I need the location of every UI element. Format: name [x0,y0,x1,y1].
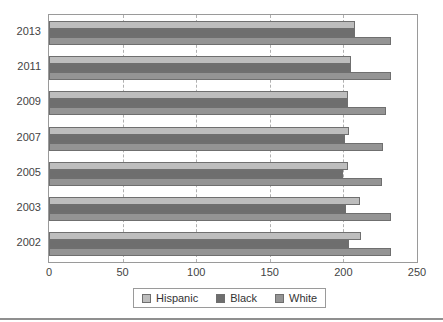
x-tick-label-0: 0 [46,266,52,278]
bar-black-2003 [49,205,346,213]
legend-item-black[interactable]: Black [216,292,257,304]
bar-hispanic-2009 [49,91,348,99]
bar-hispanic-2005 [49,162,348,170]
y-tick-label-2011: 2011 [1,60,41,72]
bar-hispanic-2007 [49,127,349,135]
bar-white-2002 [49,248,391,256]
legend-label: Black [230,292,257,304]
bar-hispanic-2011 [49,56,351,64]
bottom-divider [0,318,443,320]
bar-chart: 2013201120092007200520032002 05010015020… [0,0,443,322]
legend-swatch-icon-white [275,294,284,303]
y-tick-label-2002: 2002 [1,236,41,248]
y-tick-label-2009: 2009 [1,95,41,107]
bar-white-2009 [49,107,386,115]
bar-hispanic-2002 [49,232,361,240]
bar-white-2007 [49,143,383,151]
bar-black-2007 [49,135,345,143]
x-tick-label-150: 150 [261,266,279,278]
bar-group-2003 [49,197,417,221]
bar-group-2005 [49,162,417,186]
plot-area [48,14,418,263]
bar-group-2013 [49,21,417,45]
bar-black-2002 [49,240,349,248]
legend-item-hispanic[interactable]: Hispanic [142,292,198,304]
bar-group-2011 [49,56,417,80]
y-axis: 2013201120092007200520032002 [0,14,44,263]
x-tick-label-200: 200 [334,266,352,278]
bar-black-2009 [49,99,348,107]
bar-hispanic-2003 [49,197,360,205]
bar-black-2011 [49,64,351,72]
bar-black-2013 [49,29,355,37]
bar-white-2003 [49,213,391,221]
y-tick-label-2003: 2003 [1,201,41,213]
chart-legend: HispanicBlackWhite [133,288,326,308]
bar-black-2005 [49,170,343,178]
bar-white-2005 [49,178,382,186]
bar-group-2002 [49,232,417,256]
legend-item-white[interactable]: White [275,292,317,304]
legend-swatch-icon-hispanic [142,294,151,303]
bar-white-2011 [49,72,391,80]
x-tick-label-100: 100 [187,266,205,278]
bar-group-2009 [49,91,417,115]
legend-label: Hispanic [156,292,198,304]
bar-hispanic-2013 [49,21,355,29]
legend-label: White [289,292,317,304]
y-tick-label-2005: 2005 [1,166,41,178]
bar-white-2013 [49,37,391,45]
bar-group-2007 [49,127,417,151]
x-tick-label-250: 250 [408,266,426,278]
y-tick-label-2013: 2013 [1,25,41,37]
x-axis: 050100150200250 [48,266,418,282]
legend-swatch-icon-black [216,294,225,303]
y-tick-label-2007: 2007 [1,131,41,143]
x-tick-label-50: 50 [116,266,128,278]
